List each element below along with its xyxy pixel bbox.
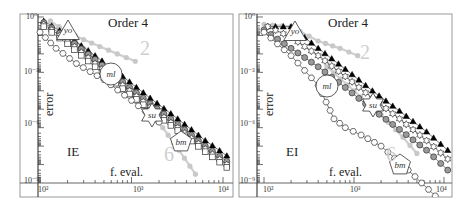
y-tick-1e-3: 10⁻³: [24, 67, 39, 76]
slope-label-6: 6: [164, 143, 174, 166]
y-tick-1e-9: 10⁻⁹: [24, 176, 39, 185]
svg-text:su: su: [369, 100, 378, 110]
svg-text:yo: yo: [63, 25, 73, 35]
plot-title: Order 4: [108, 15, 148, 31]
svg-text:yo: yo: [290, 26, 300, 36]
slope-label-2: 2: [360, 41, 370, 64]
left-plot-panel: yomlsubm Order 4 IE f. eval. error 10⁰ 1…: [0, 0, 235, 207]
svg-text:ml: ml: [323, 81, 332, 91]
x-tick-1e3: 10³: [133, 185, 143, 194]
annotation-ml: ml: [316, 75, 338, 97]
y-tick-1e-9: 10⁻⁹: [240, 176, 255, 185]
y-axis-label: error: [262, 93, 277, 116]
svg-text:bm: bm: [395, 160, 407, 170]
plot-title: Order 4: [328, 15, 368, 31]
x-tick-1e3: 10³: [350, 185, 360, 194]
method-tag: IE: [67, 144, 79, 160]
method-tag: EI: [286, 144, 298, 160]
y-tick-1e0: 10⁰: [244, 12, 255, 21]
x-tick-1e4: 10⁴: [436, 185, 447, 194]
annotation-yo: yo: [284, 21, 307, 41]
right-plot-panel: yomlsubm Order 4 EI f. eval. error 10⁰ 1…: [236, 0, 471, 207]
x-tick-1e2: 10²: [263, 185, 273, 194]
y-tick-1e-6: 10⁻⁶: [24, 119, 39, 128]
y-tick-1e-6: 10⁻⁶: [240, 119, 255, 128]
slope-label-6: 6: [386, 143, 396, 166]
y-tick-1e-3: 10⁻³: [240, 67, 255, 76]
svg-text:bm: bm: [176, 137, 188, 147]
x-tick-1e4: 10⁴: [218, 185, 229, 194]
annotation-ml: ml: [100, 63, 122, 85]
slope-label-2: 2: [140, 37, 150, 60]
y-axis-label: error: [42, 93, 57, 116]
x-axis-label: f. eval.: [110, 165, 143, 180]
x-axis-label: f. eval.: [329, 165, 362, 180]
svg-text:su: su: [148, 110, 157, 120]
y-tick-1e0: 10⁰: [26, 12, 37, 21]
svg-text:ml: ml: [107, 69, 116, 79]
x-tick-1e2: 10²: [38, 185, 48, 194]
